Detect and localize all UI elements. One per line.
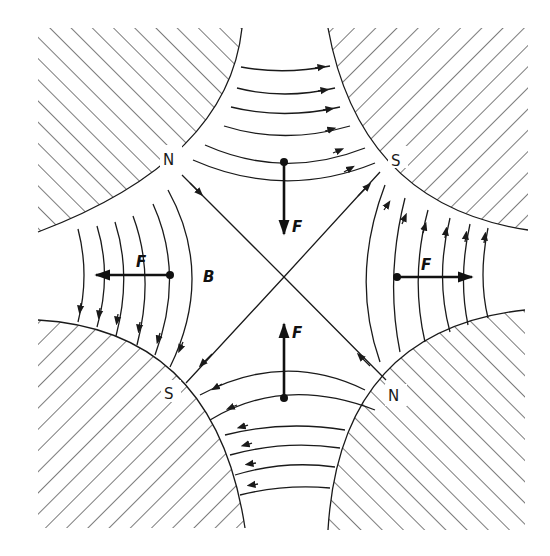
force-label-left: F xyxy=(136,253,147,271)
pole-bottom-right: N xyxy=(320,300,535,535)
force-top: F xyxy=(280,158,303,236)
pole-label-n-top-left: N xyxy=(163,151,174,169)
pole-label-s-bottom-left: S xyxy=(164,385,174,403)
pole-label-n-bottom-right: N xyxy=(388,387,399,405)
pole-label-s-top-right: S xyxy=(391,152,401,170)
pole-top-left: N xyxy=(30,20,260,250)
force-label-bottom: F xyxy=(292,324,303,342)
pole-top-right: S xyxy=(320,20,535,240)
pole-bottom-left: S xyxy=(30,310,260,535)
quadrupole-diagram: N S S N xyxy=(0,0,550,556)
force-label-top: F xyxy=(292,218,303,236)
diagram-canvas: N S S N xyxy=(0,0,550,556)
field-label-b: B xyxy=(203,268,214,286)
force-left: F xyxy=(96,253,174,279)
force-label-right: F xyxy=(421,256,432,274)
force-bottom: F xyxy=(280,324,303,402)
force-right: F xyxy=(393,256,472,281)
